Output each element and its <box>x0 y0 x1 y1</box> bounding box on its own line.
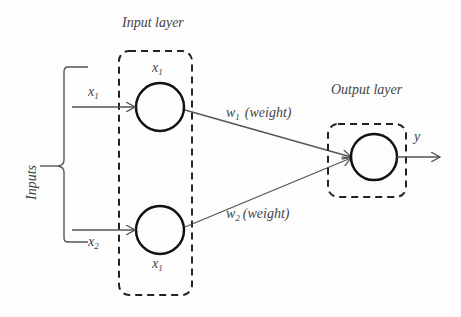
output-node <box>351 134 397 180</box>
node1-label: x1 <box>151 60 163 77</box>
perceptron-diagram: Input layer x1 x1 Inputs x1 x2 w1(weight… <box>0 0 461 317</box>
weight-w1-label: w1(weight) <box>226 105 292 122</box>
input-node-2 <box>136 206 184 254</box>
inputs-brace <box>58 67 88 242</box>
inputs-label: Inputs <box>24 164 39 201</box>
node2-label: x1 <box>151 256 163 273</box>
weight-w2-label: w2(weight) <box>226 206 290 223</box>
input-node-1 <box>136 83 184 131</box>
output-y-label: y <box>412 129 421 144</box>
output-layer-title: Output layer <box>331 82 403 97</box>
input-layer-title: Input layer <box>121 15 184 30</box>
input-x1-label: x1 <box>87 84 99 101</box>
input-x2-label: x2 <box>87 234 99 251</box>
